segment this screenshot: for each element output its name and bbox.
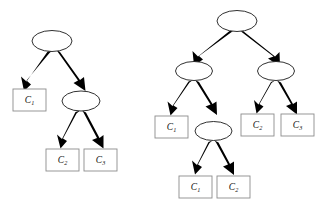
edge-lower-to-c2-bottom bbox=[215, 141, 235, 176]
right-decision-tree: C1 C2 C3 C1 C2 bbox=[155, 11, 314, 199]
right-right-internal-node[interactable] bbox=[258, 62, 295, 81]
edge-root-to-c1 bbox=[21, 50, 54, 92]
edge-left-internal-to-c1 bbox=[168, 80, 194, 116]
edge-internal-to-c3 bbox=[82, 111, 104, 149]
left-decision-tree: C1 C2 C3 bbox=[13, 31, 117, 172]
edge-internal-to-c2 bbox=[57, 111, 80, 149]
right-lower-internal-node[interactable] bbox=[195, 122, 232, 141]
right-left-internal-node[interactable] bbox=[176, 62, 213, 81]
left-internal-node[interactable] bbox=[62, 91, 100, 111]
edge-lower-to-c1-bottom bbox=[192, 141, 213, 175]
right-tree-edges bbox=[168, 30, 298, 176]
left-leaf-c2[interactable]: C2 bbox=[46, 149, 79, 171]
right-leaf-c2[interactable]: C2 bbox=[241, 114, 274, 136]
edge-right-internal-to-c3 bbox=[277, 81, 297, 115]
left-leaf-c1[interactable]: C1 bbox=[13, 89, 46, 111]
right-root-node[interactable] bbox=[217, 11, 257, 32]
edge-root-to-left-internal bbox=[193, 30, 236, 66]
left-root-node[interactable] bbox=[32, 31, 72, 52]
edge-left-internal-to-lower bbox=[195, 80, 217, 115]
right-leaf-c1-bottom[interactable]: C1 bbox=[179, 176, 212, 198]
edge-right-internal-to-c2 bbox=[254, 81, 275, 114]
tree-diagram-figure: C1 C2 C3 bbox=[0, 0, 319, 205]
right-leaf-c1-left[interactable]: C1 bbox=[155, 116, 188, 138]
right-leaf-c3[interactable]: C3 bbox=[281, 114, 314, 136]
right-leaf-c2-bottom[interactable]: C2 bbox=[217, 176, 250, 198]
left-leaf-c3[interactable]: C3 bbox=[84, 149, 117, 171]
edge-root-to-right-internal bbox=[239, 30, 281, 67]
edge-root-to-internal bbox=[56, 50, 86, 92]
